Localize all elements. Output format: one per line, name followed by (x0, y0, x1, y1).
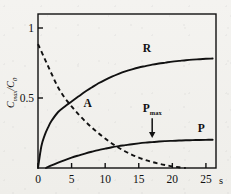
y-axis-label-sub-zero: 0 (11, 77, 18, 81)
x-tick-label: 0 (35, 173, 41, 185)
x-tick-label: 25 (200, 173, 212, 185)
curve-label-R: R (143, 42, 152, 54)
x-axis-unit-label: s (219, 175, 223, 186)
y-tick-label: 1 (28, 22, 34, 34)
curve-label-P: P (198, 122, 205, 134)
curve-label-A: A (84, 97, 93, 109)
x-axis-tick-labels: 0510152025 (35, 173, 212, 185)
x-axis-ticks (38, 163, 206, 168)
x-tick-label: 5 (69, 173, 75, 185)
y-axis-tick-labels: 10.5 (20, 22, 35, 104)
y-axis-label-sub-max: max (11, 90, 18, 101)
pmax-arrow-head (149, 132, 155, 138)
y-axis-label-group: Cmax/C0 (5, 77, 18, 108)
pmax-label-p: P (143, 102, 150, 114)
x-tick-label: 20 (167, 173, 179, 185)
x-tick-label: 10 (99, 173, 111, 185)
chart-svg: 10.5 0510152025 s Cmax/C0 R A P Pmax (0, 0, 231, 194)
y-axis-label: Cmax/C0 (5, 77, 18, 108)
y-axis-label-slash-c: /C (5, 81, 16, 92)
pmax-annotation: Pmax (143, 102, 163, 138)
pmax-label: Pmax (143, 102, 163, 116)
y-axis-ticks (38, 28, 43, 98)
x-tick-label: 15 (133, 173, 145, 185)
figure-container: 10.5 0510152025 s Cmax/C0 R A P Pmax (0, 0, 231, 194)
pmax-label-sub: max (150, 109, 163, 116)
y-tick-label: 0.5 (20, 92, 35, 104)
